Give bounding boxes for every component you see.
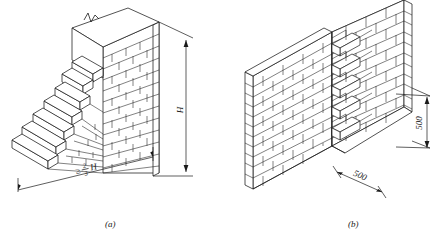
panel-b-drawing <box>245 0 412 189</box>
fraction-suffix-H: H <box>88 161 98 173</box>
caption-panel-a: (a) <box>105 219 116 229</box>
dimension-label-height: H <box>175 106 185 114</box>
figure-root: H ≥ 2 3 H <box>0 0 447 239</box>
drawing-canvas: H ≥ 2 3 H <box>0 0 447 239</box>
panel-a-drawing <box>12 8 159 176</box>
caption-panel-b: (b) <box>348 219 359 229</box>
geq-symbol: ≥ <box>74 165 81 176</box>
dimension-label-stepped-length: ≥ 2 3 H <box>74 159 99 178</box>
wall-b-left-leaf <box>245 28 332 189</box>
stepped-toothing-a <box>12 28 103 169</box>
svg-text:≥: ≥ <box>74 165 81 176</box>
dimension-label-b-horizontal: 500 <box>352 168 369 183</box>
dimension-label-b-vertical: 500 <box>414 116 424 130</box>
